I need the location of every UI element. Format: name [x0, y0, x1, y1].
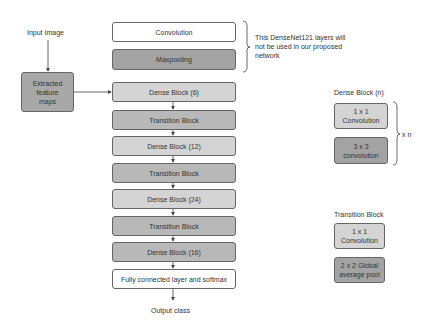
dense-block-24-box: Dense Block (24)	[112, 189, 236, 209]
maxpooling-box: Maxpooling	[112, 49, 236, 70]
transition-block-1-box: Transition Block	[112, 110, 236, 130]
dense-block-legend-title: Dense Block (n)	[334, 88, 384, 97]
transition-block-1-label: Transition Block	[149, 116, 199, 125]
dense-legend-1x1-label: 1 x 1 Convolution	[342, 107, 380, 125]
annotation-text: This DenseNet121 layers will not be used…	[255, 33, 353, 60]
transition-block-2-box: Transition Block	[112, 163, 236, 183]
dense-block-12-label: Dense Block (12)	[147, 142, 201, 151]
input-image-label: Input Image	[27, 28, 64, 37]
transition-block-3-box: Transition Block	[112, 216, 236, 236]
transition-block-2-label: Transition Block	[149, 169, 199, 178]
dense-legend-1x1-box: 1 x 1 Convolution	[334, 103, 388, 129]
dense-block-6-label: Dense Block (6)	[149, 88, 199, 97]
output-class-label: Output class	[151, 306, 190, 315]
maxpooling-label: Maxpooling	[156, 55, 192, 64]
dense-block-16-box: Dense Block (16)	[112, 242, 236, 262]
convolution-label: Convolution	[156, 28, 193, 37]
transition-block-3-label: Transition Block	[149, 222, 199, 231]
transition-legend-1x1-label: 1 x 1 Convolution	[341, 227, 379, 245]
fully-connected-box: Fully connected layer and softmax	[112, 269, 236, 289]
dense-block-24-label: Dense Block (24)	[147, 195, 201, 204]
repeat-label: x n	[402, 130, 411, 139]
dense-block-12-box: Dense Block (12)	[112, 136, 236, 156]
extracted-feature-maps-box: Extracted feature maps	[21, 72, 74, 112]
dense-block-16-label: Dense Block (16)	[147, 248, 201, 257]
transition-legend-pool-box: 2 x 2 Global average pool	[334, 257, 385, 283]
transition-legend-pool-label: 2 x 2 Global average pool	[338, 261, 382, 279]
extracted-feature-maps-label: Extracted feature maps	[28, 79, 68, 106]
transition-legend-1x1-box: 1 x 1 Convolution	[334, 223, 385, 249]
convolution-box: Convolution	[112, 22, 236, 42]
dense-legend-3x3-label: 3 x 3 convolution	[342, 142, 380, 160]
transition-block-legend-title: Transition Block	[334, 210, 384, 219]
fully-connected-label: Fully connected layer and softmax	[121, 275, 227, 284]
dense-block-6-box: Dense Block (6)	[112, 82, 236, 102]
dense-legend-3x3-box: 3 x 3 convolution	[334, 137, 388, 164]
